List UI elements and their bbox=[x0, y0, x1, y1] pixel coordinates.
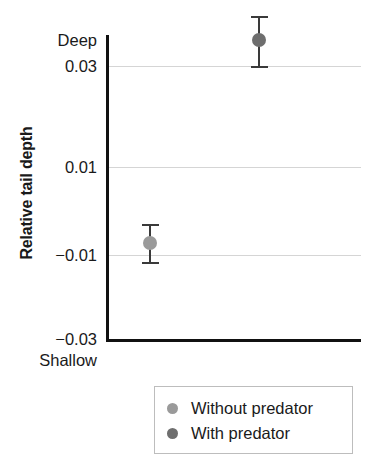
y-tick-label-neg0.03: −0.03 bbox=[7, 331, 97, 348]
gridline-0.03 bbox=[109, 66, 361, 67]
error-bar-cap-lower-without-predator bbox=[142, 262, 159, 264]
legend-label-with-predator: With predator bbox=[191, 425, 290, 442]
gridline-neg0.01 bbox=[109, 255, 361, 256]
marker-without-predator bbox=[143, 236, 157, 250]
y-axis-bottom-label: Shallow bbox=[0, 352, 97, 369]
relative-tail-depth-chart: Relative tail depth Deep 0.03 0.01 −0.01… bbox=[0, 0, 371, 473]
legend-label-without-predator: Without predator bbox=[191, 400, 313, 417]
y-axis-line bbox=[106, 35, 109, 342]
y-tick-label-neg0.01: −0.01 bbox=[7, 247, 97, 264]
y-axis-top-label: Deep bbox=[0, 32, 97, 49]
marker-with-predator bbox=[252, 33, 266, 47]
legend-item-without-predator[interactable]: Without predator bbox=[167, 400, 313, 417]
legend: Without predator With predator bbox=[154, 386, 353, 454]
x-axis-line bbox=[106, 339, 361, 342]
legend-item-with-predator[interactable]: With predator bbox=[167, 425, 290, 442]
legend-swatch-with-predator-icon bbox=[167, 428, 178, 439]
error-bar-cap-upper-with-predator bbox=[251, 16, 268, 18]
gridline-0.01 bbox=[109, 167, 361, 168]
legend-swatch-without-predator-icon bbox=[167, 403, 178, 414]
y-tick-label-0.03: 0.03 bbox=[7, 58, 97, 75]
error-bar-cap-lower-with-predator bbox=[251, 66, 268, 68]
y-tick-label-0.01: 0.01 bbox=[7, 159, 97, 176]
error-bar-cap-upper-without-predator bbox=[142, 224, 159, 226]
